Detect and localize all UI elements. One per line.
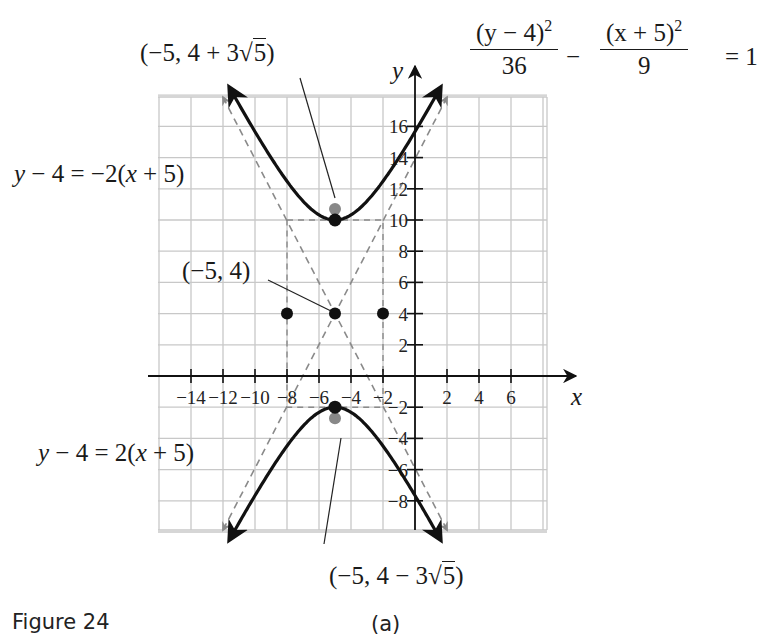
bottom-focus-prefix: (−5, 4 − 3 [329, 562, 428, 589]
top-focus-prefix: (−5, 4 + 3 [140, 39, 239, 66]
asymptote-pos-rhs: + 5) [147, 439, 194, 466]
asymptote-neg-rhs: + 5) [137, 160, 184, 187]
bottom-focus-label: (−5, 4 − 3√5) [329, 563, 464, 588]
term1-exponent: 2 [544, 17, 552, 34]
x-tick-label: −4 [341, 387, 362, 408]
asymptote-pos-var: x [136, 439, 147, 466]
x-tick-label: 6 [506, 387, 516, 408]
sqrt-icon: √ [239, 39, 253, 66]
x-tick-label: 4 [474, 387, 484, 408]
term1-denominator: 36 [502, 50, 527, 79]
y-tick-label: 6 [399, 272, 409, 293]
y-tick-label: −2 [388, 397, 408, 418]
y-tick-label: −4 [388, 428, 409, 449]
x-tick-label: −12 [208, 387, 238, 408]
term2-numerator: (x + 5) [606, 19, 674, 46]
equation-term2: (x + 5)2 9 [600, 20, 688, 80]
top-focus-label: (−5, 4 + 3√5) [140, 40, 275, 65]
x-tick-label: −6 [309, 387, 329, 408]
upper-branch [229, 87, 440, 220]
top-focus-sqrt-arg: 5 [253, 38, 267, 66]
co-vertex-right [377, 308, 389, 320]
y-tick-label: 16 [389, 116, 408, 137]
vertex-bottom [329, 401, 342, 414]
term2-denominator: 9 [638, 50, 651, 79]
y-axis-label: y [392, 58, 403, 83]
top-focus-leader [300, 78, 335, 198]
center-point [329, 308, 341, 320]
focus-top [329, 203, 341, 215]
asymptote-positive-label: yy − 4 = 2( − 4 = 2(x + 5) [38, 440, 194, 465]
bottom-focus-leader [324, 438, 341, 544]
top-focus-suffix: ) [266, 39, 274, 66]
equation-term1: (y − 4)2 36 [470, 20, 558, 80]
center-label: (−5, 4) [182, 258, 250, 283]
bottom-focus-suffix: ) [455, 562, 463, 589]
x-tick-label: −8 [277, 387, 297, 408]
y-tick-label: 4 [399, 304, 409, 325]
center-leader [268, 280, 331, 311]
figure-caption: Figure 24 [12, 610, 110, 634]
sqrt-icon: √ [428, 562, 442, 589]
panel-label: (a) [371, 612, 400, 636]
x-tick-label: −10 [240, 387, 270, 408]
asymptote-neg-var: x [126, 160, 137, 187]
co-vertex-left [281, 308, 293, 320]
bottom-focus-sqrt-arg: 5 [442, 561, 456, 589]
vertex-top [329, 214, 342, 227]
focus-bottom [329, 412, 341, 424]
hyperbola-graph: −14−12−10−8−6−4−2246−8−6−4−2246810121416 [0, 0, 771, 641]
y-tick-label: −8 [388, 491, 408, 512]
x-tick-label: 2 [442, 387, 452, 408]
x-axis-label: x [571, 384, 582, 409]
x-tick-label: −14 [176, 387, 206, 408]
asymptote-negative-label: yy − 4 = −2( − 4 = −2(x + 5) [14, 161, 184, 186]
y-tick-label: 8 [399, 241, 409, 262]
y-tick-label: 12 [389, 179, 408, 200]
term2-exponent: 2 [674, 17, 682, 34]
y-tick-label: 10 [389, 210, 408, 231]
equation-minus: − [566, 44, 580, 69]
y-tick-label: 2 [399, 335, 409, 356]
term1-numerator: (y − 4) [476, 19, 544, 46]
equation-rhs: = 1 [725, 44, 758, 69]
